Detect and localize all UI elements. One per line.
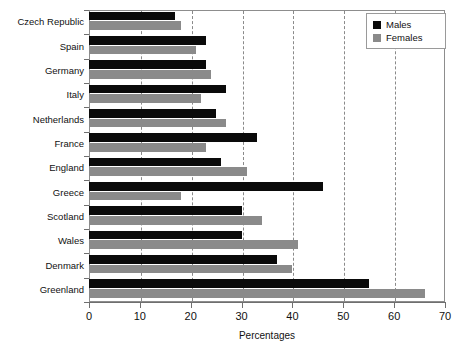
bar-group xyxy=(89,132,445,156)
y-axis-label: Netherlands xyxy=(0,114,84,125)
bar-females xyxy=(89,143,206,152)
bar-females xyxy=(89,192,181,201)
x-tick-label-40: 40 xyxy=(272,310,312,323)
y-tick xyxy=(84,34,89,35)
bar-females xyxy=(89,94,201,103)
x-tick-50 xyxy=(343,302,344,308)
x-tick-label-50: 50 xyxy=(323,310,363,323)
bar-males xyxy=(89,255,277,264)
y-axis-label: Germany xyxy=(0,65,84,76)
bar-males xyxy=(89,206,242,215)
bar-males xyxy=(89,85,226,94)
bar-males xyxy=(89,60,206,69)
y-tick xyxy=(84,132,89,133)
y-axis-label: Scotland xyxy=(0,211,84,222)
y-axis-label: Denmark xyxy=(0,260,84,271)
y-tick xyxy=(84,205,89,206)
bar-males xyxy=(89,158,221,167)
bar-females xyxy=(89,265,292,274)
x-tick-40 xyxy=(292,302,293,308)
x-tick-60 xyxy=(394,302,395,308)
y-axis-label: Czech Republic xyxy=(0,16,84,27)
bars-layer xyxy=(89,10,445,302)
bar-females xyxy=(89,70,211,79)
y-tick xyxy=(84,10,89,11)
y-axis-label: Spain xyxy=(0,41,84,52)
bar-group xyxy=(89,205,445,229)
bar-males xyxy=(89,36,206,45)
y-tick xyxy=(84,156,89,157)
bar-females xyxy=(89,216,262,225)
y-tick xyxy=(84,83,89,84)
legend-item-males: Males xyxy=(373,18,440,31)
x-axis-line xyxy=(89,302,445,303)
legend-label-males: Males xyxy=(386,19,411,30)
bar-males xyxy=(89,279,369,288)
bar-group xyxy=(89,107,445,131)
bar-females xyxy=(89,21,181,30)
y-axis-label: England xyxy=(0,162,84,173)
bar-males xyxy=(89,231,242,240)
y-axis-label: Italy xyxy=(0,89,84,100)
x-tick-70 xyxy=(445,302,446,308)
bar-females xyxy=(89,289,425,298)
x-tick-10 xyxy=(140,302,141,308)
y-tick xyxy=(84,253,89,254)
bar-males xyxy=(89,133,257,142)
x-tick-20 xyxy=(191,302,192,308)
y-tick xyxy=(84,59,89,60)
bar-males xyxy=(89,182,323,191)
x-tick-30 xyxy=(242,302,243,308)
x-tick-label-20: 20 xyxy=(171,310,211,323)
bar-group xyxy=(89,156,445,180)
y-axis-label: France xyxy=(0,138,84,149)
bar-males xyxy=(89,12,175,21)
x-tick-label-60: 60 xyxy=(374,310,414,323)
y-tick xyxy=(84,107,89,108)
legend-swatch-females-icon xyxy=(373,34,381,42)
chart-legend: Males Females xyxy=(366,13,446,49)
x-tick-label-30: 30 xyxy=(222,310,262,323)
bar-group xyxy=(89,83,445,107)
y-axis-label: Wales xyxy=(0,235,84,246)
bar-group xyxy=(89,278,445,302)
legend-swatch-males-icon xyxy=(373,21,381,29)
x-axis-title: Percentages xyxy=(89,330,445,342)
bar-group xyxy=(89,180,445,204)
x-tick-label-10: 10 xyxy=(120,310,160,323)
x-tick-label-70: 70 xyxy=(425,310,456,323)
bar-group xyxy=(89,229,445,253)
legend-item-females: Females xyxy=(373,31,440,44)
y-tick xyxy=(84,278,89,279)
x-tick-label-0: 0 xyxy=(69,310,109,323)
y-axis-label: Greece xyxy=(0,187,84,198)
bar-females xyxy=(89,46,196,55)
bar-chart: Czech RepublicSpainGermanyItalyNetherlan… xyxy=(0,0,456,364)
y-tick xyxy=(84,229,89,230)
bar-females xyxy=(89,240,298,249)
bar-group xyxy=(89,59,445,83)
x-tick-0 xyxy=(89,302,90,308)
legend-label-females: Females xyxy=(386,32,422,43)
y-axis-label: Greenland xyxy=(0,284,84,295)
y-axis-labels: Czech RepublicSpainGermanyItalyNetherlan… xyxy=(0,10,84,302)
bar-males xyxy=(89,109,216,118)
bar-group xyxy=(89,253,445,277)
bar-females xyxy=(89,119,226,128)
bar-females xyxy=(89,167,247,176)
y-tick xyxy=(84,180,89,181)
